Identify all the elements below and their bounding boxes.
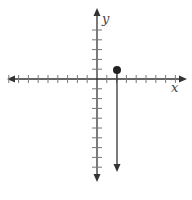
ray-arrow-icon <box>114 164 121 172</box>
x-axis-right-arrow-icon <box>179 76 187 83</box>
y-axis <box>94 8 101 182</box>
coordinate-plane: y x <box>0 0 192 200</box>
x-axis-left-arrow-icon <box>7 76 15 83</box>
y-axis-down-arrow-icon <box>94 174 101 182</box>
closed-point <box>113 66 121 74</box>
y-axis-label: y <box>101 11 110 26</box>
y-axis-up-arrow-icon <box>94 8 101 16</box>
ray <box>114 70 121 172</box>
x-axis-label: x <box>171 80 179 95</box>
